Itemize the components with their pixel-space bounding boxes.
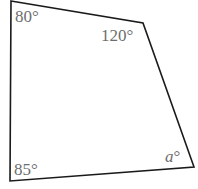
quadrilateral-diagram: 80° 120° 85° a°: [0, 0, 198, 189]
angle-label-bottom-left: 85°: [14, 160, 38, 179]
angle-variable-a: a: [165, 147, 174, 166]
angle-label-top-right: 120°: [101, 26, 133, 45]
angle-label-bottom-right: a°: [165, 147, 180, 166]
degree-symbol: °: [174, 147, 181, 166]
angle-label-top-left: 80°: [15, 7, 39, 26]
